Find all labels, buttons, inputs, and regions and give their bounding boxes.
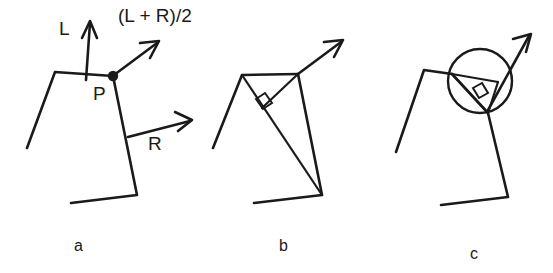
panel-b-graphic <box>213 40 343 203</box>
panel-caption-a: a <box>74 238 83 254</box>
figure-vector-layer <box>0 0 553 273</box>
label-vector-l: L <box>59 19 70 38</box>
panel-a-point-p-dot <box>108 71 118 81</box>
panel-b-construction-perpendicular <box>262 74 298 108</box>
panel-caption-c: c <box>470 246 478 262</box>
panel-caption-b: b <box>279 238 288 254</box>
panel-a-vector-l-shaft <box>86 23 90 80</box>
panel-c-graphic <box>396 34 531 205</box>
panel-c-chain-left <box>396 70 452 152</box>
label-bisector-expression: (L + R)/2 <box>118 6 192 25</box>
figure-canvas: L (L + R)/2 P R a b c <box>0 0 553 273</box>
label-vector-r: R <box>148 134 162 153</box>
label-point-p: P <box>93 84 106 103</box>
panel-a-graphic <box>27 21 192 203</box>
panel-c-right-angle-marker <box>473 83 488 98</box>
panel-c-vector-bisector-shaft <box>487 36 529 112</box>
